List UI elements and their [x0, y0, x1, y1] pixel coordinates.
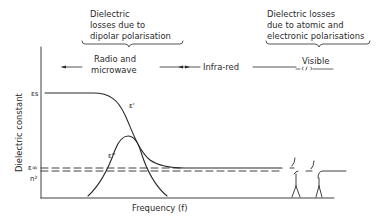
- left-brace-icon: [82, 41, 183, 47]
- y-axis-label: Dielectric constant: [14, 93, 24, 172]
- arrow-right-icon: [178, 65, 183, 68]
- resonance-upper-1-icon: [292, 158, 295, 166]
- dipolar-label-line-1: Dielectric: [90, 9, 130, 19]
- dipolar-label-line-2: losses due to: [90, 20, 145, 30]
- arrow-left-small-icon: [185, 65, 190, 68]
- atomic-label-line-1: Dielectric losses: [267, 9, 335, 19]
- resonance-lower-2-icon: [316, 178, 322, 197]
- atomic-electronic-loss-annotation: Dielectric losses due to atomic and elec…: [266, 9, 370, 47]
- eps-imag-label: ε'': [108, 152, 116, 160]
- dipolar-loss-annotation: Dielectric losses due to dipolar polaris…: [82, 9, 183, 47]
- radio-label-line-1: Radio and: [94, 54, 136, 64]
- visible-range-icon: [296, 67, 333, 70]
- eps-inf-tick-label: ε∞: [28, 164, 38, 172]
- resonance-features: [290, 158, 346, 197]
- resonance-lower-1-icon: [292, 174, 300, 197]
- x-axis-label: Frequency (f): [132, 203, 187, 213]
- resonance-upper-2-icon: [311, 161, 314, 169]
- visible-tick-icon: [306, 67, 307, 70]
- eps-real-curve: [45, 93, 282, 168]
- eps-imag-curve: [88, 136, 167, 196]
- dipolar-label-line-3: dipolar polarisation: [90, 31, 171, 41]
- atomic-label-line-3: electronic polarisations: [267, 31, 364, 41]
- atomic-label-line-2: due to atomic and: [267, 20, 344, 30]
- arrow-left-icon: [61, 65, 66, 68]
- right-brace-icon: [266, 41, 370, 47]
- eps-real-label: ε': [129, 102, 135, 110]
- region-labels: Radio and microwave Infra-red Visible: [61, 54, 333, 75]
- eps-s-tick-label: εs: [31, 90, 39, 98]
- infrared-label: Infra-red: [203, 62, 239, 72]
- visible-label: Visible: [302, 56, 329, 66]
- radio-label-line-2: microwave: [91, 65, 137, 75]
- n2-tick-label: n²: [30, 175, 37, 183]
- resonance-mid-2-icon: [318, 171, 346, 178]
- dielectric-frequency-diagram: Dielectric losses due to dipolar polaris…: [0, 0, 390, 221]
